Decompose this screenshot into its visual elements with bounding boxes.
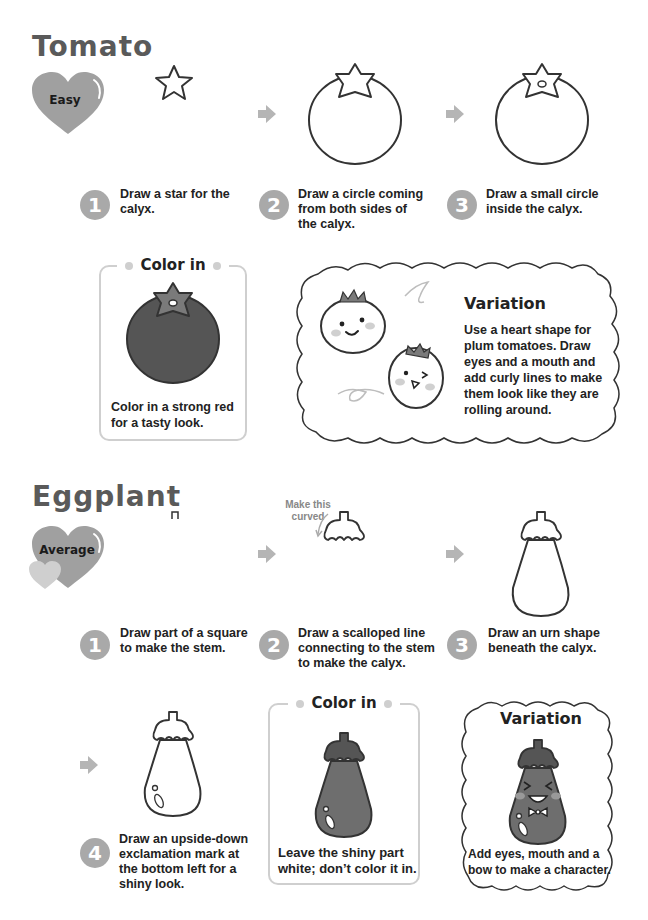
color-in-text: Color in a strong red for a tasty look.	[111, 399, 241, 431]
difficulty-badge: Easy	[30, 93, 100, 107]
step-number-4: 4	[80, 838, 110, 868]
color-in-title: Color in	[140, 256, 205, 274]
variation-title-eggplant: Variation	[500, 709, 582, 728]
step-text-2: Draw a circle coming from both sides of …	[298, 187, 428, 232]
step-text-3: Draw a small circle inside the calyx.	[486, 187, 636, 217]
colored-eggplant-drawing	[313, 731, 375, 841]
star-calyx-drawing	[153, 64, 195, 102]
eggplant-shiny-drawing	[142, 710, 204, 820]
step-number-1: 1	[80, 630, 110, 660]
arrow-right-icon	[258, 545, 276, 563]
section-title-eggplant: Eggplant	[32, 480, 181, 513]
arrow-right-icon	[446, 105, 464, 123]
eggplant-outline-drawing	[510, 510, 572, 620]
step-number-3: 3	[447, 190, 477, 220]
color-in-text: Leave the shiny part white; don’t color …	[278, 845, 418, 877]
variation-title-tomato: Variation	[464, 294, 546, 313]
color-in-header: Color in	[270, 694, 418, 712]
variation-text-tomato: Use a heart shape for plum tomatoes. Dra…	[464, 322, 614, 418]
color-in-box-eggplant: Color in Leave the shiny part white; don…	[268, 703, 420, 885]
section-title-tomato: Tomato	[32, 30, 153, 63]
color-in-title: Color in	[311, 694, 376, 712]
step-text-4: Draw an upside-down exclamation mark at …	[119, 832, 249, 892]
arrow-right-icon	[258, 105, 276, 123]
tomato-outline-drawing	[305, 62, 405, 168]
step-number-2: 2	[259, 630, 289, 660]
color-in-box-tomato: Color in Color in a strong red for a tas…	[99, 265, 247, 441]
step-number-3: 3	[447, 630, 477, 660]
variation-text-eggplant: Add eyes, mouth and a bow to make a char…	[468, 846, 618, 878]
arrow-right-icon	[446, 545, 464, 563]
color-in-header: Color in	[101, 256, 245, 274]
tomato-calyx-circle-drawing	[492, 62, 592, 168]
step-number-2: 2	[259, 190, 289, 220]
step-text-1: Draw a star for the calyx.	[120, 187, 250, 217]
scalloped-calyx-drawing	[318, 510, 368, 552]
colored-tomato-drawing	[123, 281, 223, 387]
stem-drawing	[170, 510, 180, 520]
step-number-1: 1	[80, 190, 110, 220]
step-text-1: Draw part of a square to make the stem.	[120, 626, 250, 656]
arrow-right-icon	[80, 756, 98, 774]
difficulty-badge: Average	[32, 543, 102, 557]
step-text-3: Draw an urn shape beneath the calyx.	[488, 626, 608, 656]
step-text-2: Draw a scalloped line connecting to the …	[298, 626, 438, 671]
small-heart-icon	[28, 560, 62, 590]
